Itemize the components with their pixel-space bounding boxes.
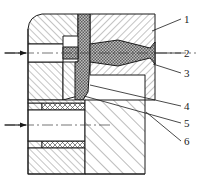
lower-inlet-channel (28, 110, 85, 141)
lower-seal-band (28, 141, 85, 148)
upper-seal-band (28, 103, 85, 110)
leader-3 (153, 64, 181, 73)
leader-6 (146, 112, 181, 141)
leader-1 (152, 19, 181, 31)
callout-label-2: 2 (184, 48, 190, 59)
lower-right-die-block (85, 100, 145, 174)
callout-label-1: 1 (184, 14, 190, 25)
technical-drawing-figure: 1 2 3 4 5 6 (0, 0, 200, 188)
callout-label-5: 5 (184, 118, 190, 129)
callout-label-4: 4 (184, 101, 190, 112)
callout-label-3: 3 (184, 68, 190, 79)
section-drawing-svg (0, 0, 200, 188)
callout-label-6: 6 (184, 136, 190, 147)
